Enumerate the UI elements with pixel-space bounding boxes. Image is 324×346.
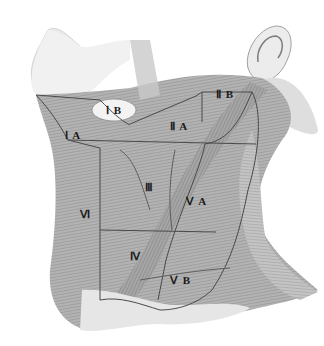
level-iv-label: Ⅳ [130, 250, 141, 263]
level-ib-label: Ⅰ B [106, 104, 122, 117]
neck-illustration [0, 0, 324, 346]
level-iib-label: Ⅱ B [216, 88, 234, 101]
level-ia-label: Ⅰ A [65, 129, 81, 142]
neck-diagram: Ⅰ A Ⅰ B Ⅱ A Ⅱ B Ⅲ Ⅴ A Ⅵ Ⅳ Ⅴ B [0, 0, 324, 346]
ear [247, 26, 291, 82]
level-vb-label: Ⅴ B [170, 274, 191, 287]
chin-region [31, 28, 130, 95]
level-iia-label: Ⅱ A [170, 120, 188, 133]
level-vi-label: Ⅵ [80, 208, 91, 221]
level-iii-label: Ⅲ [145, 181, 154, 194]
level-va-label: Ⅴ A [186, 195, 207, 208]
